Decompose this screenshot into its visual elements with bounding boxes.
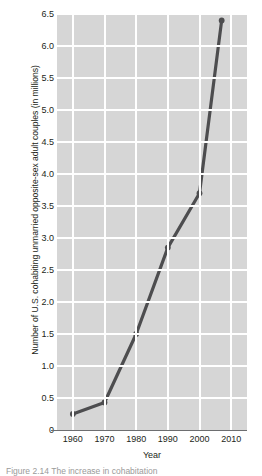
gridline-horizontal: [57, 141, 247, 143]
x-axis-title: Year: [57, 450, 247, 460]
y-axis-tick-label: 5.5: [26, 74, 54, 83]
x-axis-tick-label: 2010: [209, 434, 253, 444]
y-axis-tick-label: 6.0: [26, 42, 54, 51]
gridline-horizontal: [57, 205, 247, 207]
gridline-horizontal: [57, 365, 247, 367]
gridline-vertical: [167, 14, 169, 430]
y-axis-tick-label: 5.0: [26, 106, 54, 115]
gridline-horizontal: [57, 237, 247, 239]
y-axis-tick-label: 0: [26, 426, 54, 435]
gridline-vertical: [135, 14, 137, 430]
plot-area: [57, 14, 247, 430]
gridline-horizontal: [57, 269, 247, 271]
gridline-vertical: [230, 14, 232, 430]
y-axis-tick-label: 0.5: [26, 394, 54, 403]
gridline-vertical: [199, 14, 201, 430]
figure-caption: Figure 2.14 The increase in cohabitation: [6, 466, 256, 476]
gridline-horizontal: [57, 173, 247, 175]
y-axis-tick-label: 4.0: [26, 170, 54, 179]
gridline-horizontal: [57, 45, 247, 47]
y-axis-tick-label: 1.0: [26, 362, 54, 371]
y-axis-tick-label: 1.5: [26, 330, 54, 339]
gridline-horizontal: [57, 301, 247, 303]
y-axis-tick-labels: 00.51.01.52.02.53.03.54.04.55.05.56.06.5: [26, 0, 54, 474]
y-axis-tick-label: 6.5: [26, 10, 54, 19]
gridline-vertical: [72, 14, 74, 430]
y-axis-tick-label: 2.0: [26, 298, 54, 307]
data-point-marker: [219, 18, 225, 24]
gridline-horizontal: [57, 109, 247, 111]
y-axis-tick-label: 2.5: [26, 266, 54, 275]
gridline-vertical: [104, 14, 106, 430]
gridline-horizontal: [57, 13, 247, 15]
y-axis-tick-label: 3.0: [26, 234, 54, 243]
y-axis-tick-label: 4.5: [26, 138, 54, 147]
gridline-horizontal: [57, 397, 247, 399]
x-axis-line: [51, 430, 247, 431]
gridline-horizontal: [57, 333, 247, 335]
y-axis-tick-label: 3.5: [26, 202, 54, 211]
gridline-horizontal: [57, 77, 247, 79]
